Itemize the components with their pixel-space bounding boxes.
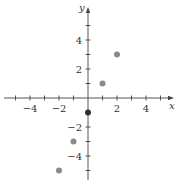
data-point — [71, 139, 77, 145]
data-point — [56, 168, 62, 174]
y-axis — [86, 10, 91, 180]
x-tick-label: 4 — [143, 103, 149, 114]
y-tick-label: −2 — [67, 122, 82, 133]
data-point — [100, 81, 106, 87]
data-point — [114, 52, 120, 58]
y-axis-arrow-icon — [86, 7, 90, 13]
y-tick-label: −4 — [67, 151, 82, 162]
y-tick-label: 4 — [76, 35, 82, 46]
x-axis-label: x — [169, 100, 175, 111]
x-tick-label: 2 — [114, 103, 120, 114]
y-axis-label: y — [78, 2, 85, 13]
x-tick-label: −4 — [23, 103, 38, 114]
y-tick-label: 2 — [76, 64, 82, 75]
scatter-plot: x y −4 −2 2 4 4 2 −2 −4 — [0, 0, 185, 185]
data-point — [85, 110, 91, 116]
x-tick-label: −2 — [52, 103, 67, 114]
